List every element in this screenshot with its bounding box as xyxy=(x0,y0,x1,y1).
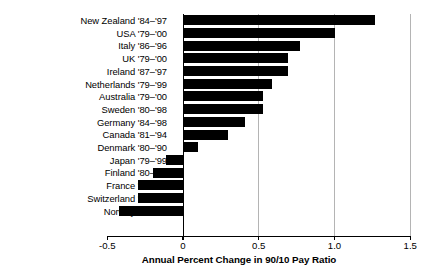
bar-row xyxy=(0,192,432,205)
bar xyxy=(183,91,263,101)
bar-row xyxy=(0,166,432,179)
x-axis-line xyxy=(108,236,411,237)
plot-area xyxy=(0,14,432,236)
bar-row xyxy=(0,78,432,91)
x-tick-label: 1.5 xyxy=(404,240,417,252)
bar xyxy=(138,180,183,190)
bar-row xyxy=(0,27,432,40)
bar xyxy=(166,155,183,165)
x-axis-title-text: Annual Percent Change in 90/10 Pay Ratio xyxy=(142,254,337,265)
bar-row xyxy=(0,52,432,65)
bar-row xyxy=(0,65,432,78)
cropped-caption-sliver xyxy=(0,270,432,279)
bar xyxy=(183,41,300,51)
bar xyxy=(183,28,335,38)
bar-row xyxy=(0,154,432,167)
bar xyxy=(119,206,183,216)
bar-row xyxy=(0,179,432,192)
bar-row xyxy=(0,39,432,52)
x-tick-label: -0.5 xyxy=(99,240,116,252)
bar xyxy=(183,66,288,76)
x-axis-title: Annual Percent Change in 90/10 Pay Ratio xyxy=(0,254,432,265)
bar-row xyxy=(0,141,432,154)
bar xyxy=(183,142,198,152)
bar xyxy=(138,193,183,203)
bar xyxy=(183,117,245,127)
bar-row xyxy=(0,205,432,218)
bar xyxy=(153,168,183,178)
bar xyxy=(183,104,263,114)
bar-row xyxy=(0,103,432,116)
x-tick-label: 0.5 xyxy=(252,240,265,252)
x-tick-label: 0 xyxy=(180,240,185,252)
bar xyxy=(183,79,272,89)
bar xyxy=(183,15,375,25)
x-tick-label: 1.0 xyxy=(328,240,341,252)
bar-row xyxy=(0,14,432,27)
bar xyxy=(183,53,288,63)
bar-row xyxy=(0,128,432,141)
bar-row xyxy=(0,116,432,129)
bar xyxy=(183,130,228,140)
horizontal-bar-chart: New Zealand '84–'97USA '79–'00Italy '86–… xyxy=(0,0,432,279)
bar-row xyxy=(0,90,432,103)
